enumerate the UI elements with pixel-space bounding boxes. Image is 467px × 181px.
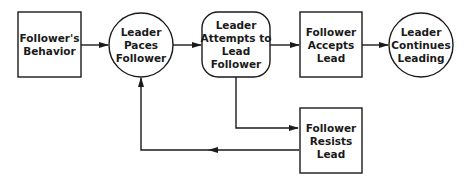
node-label-line: Follower [306,26,357,38]
node-label-line: Follower [211,58,262,70]
node-label-line: Leader [401,26,443,38]
node-label-line: Lead [222,45,250,57]
node-followers-behavior: Follower's Behavior [18,12,81,77]
node-follower-accepts-lead: Follower Accepts Lead [300,12,362,77]
node-leader-attempts-to-lead: Leader Attempts to Lead Follower [201,12,272,77]
node-label-line: Leading [397,52,444,64]
node-label-line: Leader [121,26,163,38]
node-leader-continues-leading: Leader Continues Leading [389,13,453,77]
node-label-line: Attempts to [201,32,272,44]
node-label-line: Lead [317,52,345,64]
node-label-line: Resists [310,135,353,147]
node-label-line: Accepts [308,39,354,51]
return-arrow-head [208,147,218,153]
node-label-line: Lead [317,148,345,160]
node-label-line: Paces [124,39,158,51]
node-label-line: Continues [391,39,450,51]
edge-attempts-to-resists [236,77,298,128]
pacing-leading-flowchart: Follower's Behavior Leader Paces Followe… [0,0,467,181]
node-label-line: Follower's [20,32,80,44]
node-label-line: Leader [216,19,258,31]
node-label-line: Behavior [23,45,76,57]
node-leader-paces-follower: Leader Paces Follower [109,13,173,77]
node-label-line: Follower [306,122,357,134]
edge-resists-to-paces [141,78,299,150]
node-label-line: Follower [116,52,167,64]
node-follower-resists-lead: Follower Resists Lead [300,108,362,173]
